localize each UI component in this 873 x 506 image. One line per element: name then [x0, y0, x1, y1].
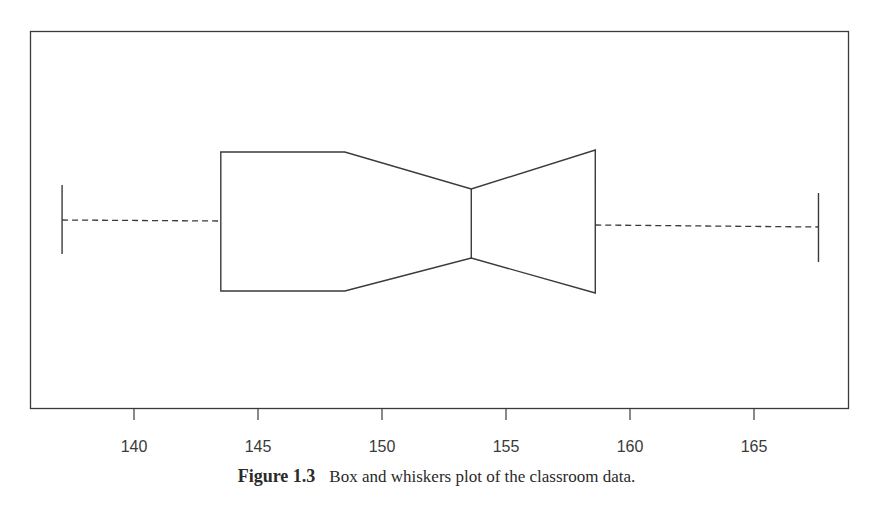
box-outline — [221, 150, 595, 293]
x-tick-label: 140 — [121, 438, 148, 455]
x-tick-label: 165 — [741, 438, 768, 455]
figure-number: Figure 1.3 — [238, 466, 316, 486]
x-axis: 140145150155160165 — [121, 409, 768, 455]
box-plot-figure: 140145150155160165 — [0, 0, 873, 506]
x-tick-label: 145 — [245, 438, 272, 455]
caption-text: Box and whiskers plot of the classroom d… — [329, 467, 635, 486]
figure-caption: Figure 1.3Box and whiskers plot of the c… — [0, 466, 873, 487]
upper-whisker — [595, 225, 818, 227]
x-tick-label: 160 — [617, 438, 644, 455]
lower-whisker — [62, 220, 221, 221]
x-tick-label: 155 — [493, 438, 520, 455]
notched-box — [62, 150, 818, 293]
x-tick-label: 150 — [369, 438, 396, 455]
